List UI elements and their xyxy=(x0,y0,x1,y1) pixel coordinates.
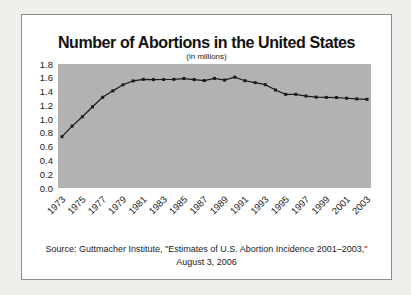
source-line-1: Source: Guttmacher Institute, "Estimates… xyxy=(22,243,391,256)
data-point-marker xyxy=(355,97,358,100)
data-point-marker xyxy=(284,93,287,96)
y-tick-label: 1.2 xyxy=(40,100,53,111)
data-point-marker xyxy=(81,115,84,118)
y-tick-label: 0.4 xyxy=(40,155,53,166)
x-tick-label: 1977 xyxy=(85,194,108,217)
x-tick-label: 1997 xyxy=(289,194,312,217)
y-tick-label: 1.4 xyxy=(40,86,53,97)
x-tick-label: 1989 xyxy=(207,194,230,217)
source-line-2: August 3, 2006 xyxy=(22,256,391,269)
x-tick-label: 2001 xyxy=(329,194,352,217)
x-tick-label: 1983 xyxy=(146,194,169,217)
data-point-marker xyxy=(71,125,74,128)
x-tick-label: 1995 xyxy=(268,194,291,217)
data-point-marker xyxy=(132,79,135,82)
y-tick-label: 1.0 xyxy=(40,114,53,125)
data-point-marker xyxy=(223,79,226,82)
data-point-marker xyxy=(162,78,165,81)
data-point-marker xyxy=(213,77,216,80)
data-point-marker xyxy=(254,81,257,84)
y-tick-label: 1.6 xyxy=(40,72,53,83)
plot-area xyxy=(58,64,371,188)
y-tick-label: 1.8 xyxy=(40,61,53,70)
x-tick-label: 1991 xyxy=(228,194,251,217)
source-citation: Source: Guttmacher Institute, "Estimates… xyxy=(22,243,391,269)
chart-title: Number of Abortions in the United States xyxy=(22,34,391,52)
data-point-marker xyxy=(183,77,186,80)
data-point-marker xyxy=(335,96,338,99)
x-tick-label: 2003 xyxy=(350,194,373,217)
data-point-marker xyxy=(315,96,318,99)
y-tick-label: 0.8 xyxy=(40,127,53,138)
data-point-marker xyxy=(91,105,94,108)
data-point-marker xyxy=(305,95,308,98)
data-point-marker xyxy=(264,83,267,86)
data-point-marker xyxy=(172,78,175,81)
x-tick-label: 1979 xyxy=(106,194,129,217)
x-axis-labels: 1973197519771979198119831985198719891991… xyxy=(45,194,373,217)
data-point-marker xyxy=(122,83,125,86)
data-point-marker xyxy=(274,88,277,91)
data-point-marker xyxy=(325,96,328,99)
data-point-marker xyxy=(294,93,297,96)
x-tick-label: 1987 xyxy=(187,194,210,217)
x-tick-label: 1975 xyxy=(65,194,88,217)
data-point-marker xyxy=(366,98,369,101)
data-point-marker xyxy=(203,79,206,82)
x-tick-label: 1993 xyxy=(248,194,271,217)
chart-card: Number of Abortions in the United States… xyxy=(21,14,392,280)
data-point-marker xyxy=(193,78,196,81)
y-tick-label: 0.6 xyxy=(40,141,53,152)
chart-subtitle: (in millions) xyxy=(22,52,391,61)
x-tick-label: 1973 xyxy=(45,194,68,217)
y-tick-label: 0.0 xyxy=(40,183,53,194)
data-point-marker xyxy=(111,89,114,92)
y-tick-label: 0.2 xyxy=(40,169,53,180)
data-point-marker xyxy=(345,97,348,100)
data-point-marker xyxy=(61,135,64,138)
x-tick-label: 1999 xyxy=(309,194,332,217)
data-point-marker xyxy=(244,79,247,82)
data-point-marker xyxy=(142,78,145,81)
data-point-marker xyxy=(152,78,155,81)
x-tick-label: 1981 xyxy=(126,194,149,217)
data-point-marker xyxy=(233,76,236,79)
x-tick-label: 1985 xyxy=(167,194,190,217)
line-chart: 1.81.61.41.21.00.80.60.40.20.01973197519… xyxy=(22,61,393,237)
data-point-marker xyxy=(101,96,104,99)
y-axis-labels: 1.81.61.41.21.00.80.60.40.20.0 xyxy=(40,61,53,194)
